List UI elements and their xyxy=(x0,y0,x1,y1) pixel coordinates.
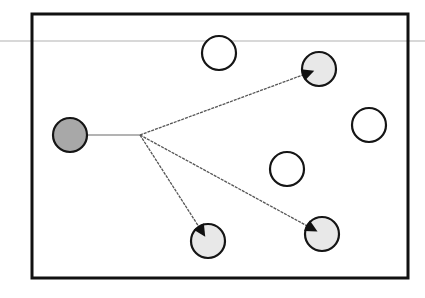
edge-arrow-target-bottom-left xyxy=(140,135,205,236)
target-node-target-top-right xyxy=(302,52,336,86)
neutral-node-node-top xyxy=(202,36,236,70)
neutral-node-node-right xyxy=(352,108,386,142)
nodes-group xyxy=(53,36,386,258)
arrowheads-group xyxy=(194,69,318,236)
neutral-node-node-middle xyxy=(270,152,304,186)
edge-arrow-target-top-right xyxy=(140,71,313,135)
diagram-canvas xyxy=(0,0,425,298)
source-node xyxy=(53,118,87,152)
